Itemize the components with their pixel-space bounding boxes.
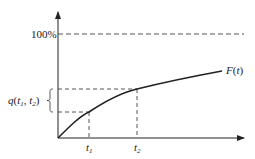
- t2-sub: 2: [137, 147, 141, 155]
- interval-close: ): [36, 94, 40, 106]
- t2-tick-label: t2: [134, 142, 141, 155]
- interval-label: q(t1, t2): [8, 95, 39, 108]
- t1-sub: 1: [89, 147, 93, 155]
- interval-brace: [47, 89, 53, 112]
- f-curve: [58, 71, 222, 138]
- diagram-canvas: [0, 0, 255, 159]
- curve-close: ): [239, 64, 243, 76]
- curve-label: F(t): [226, 65, 243, 76]
- t1-tick-label: t1: [86, 142, 93, 155]
- hundred-percent-label: 100%: [31, 29, 57, 40]
- curve-func: F: [226, 64, 233, 76]
